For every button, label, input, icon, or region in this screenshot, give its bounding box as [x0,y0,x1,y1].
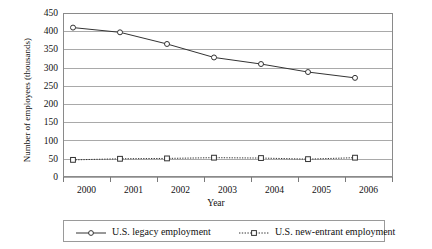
x-axis-tick [345,177,346,182]
chart-figure: Number of employees (thousands) 450 400 … [0,0,432,249]
x-axis-tick [63,177,64,182]
x-axis-tick [251,177,252,182]
x-axis-tick [157,177,158,182]
chart-legend: U.S. legacy employment U.S. new-entrant … [63,220,385,242]
data-point-marker [71,157,76,162]
x-tick-label: 2006 [344,185,394,195]
data-point-marker [118,30,123,35]
data-point-marker [259,156,264,161]
legend-label: U.S. legacy employment [112,226,211,237]
x-tick-label: 2004 [250,185,300,195]
data-point-marker [306,70,311,75]
x-axis-tick [204,177,205,182]
data-point-marker [71,25,76,30]
series-new-entrant-employment [71,155,358,162]
data-point-marker [165,156,170,161]
legend-entry-new-entrant-employment[interactable]: U.S. new-entrant employment [239,225,396,237]
x-axis-tick [392,177,393,182]
data-point-marker [165,41,170,46]
x-tick-label: 2001 [109,185,159,195]
x-axis-title: Year [0,198,432,208]
data-point-marker [212,55,217,60]
x-axis-tick [298,177,299,182]
data-point-marker [212,155,217,160]
series-line [73,28,355,78]
series-legacy-employment [71,25,358,80]
solid-line-circle-marker-icon [76,225,106,237]
data-point-marker [259,62,264,67]
dotted-line-square-marker-icon [239,225,269,237]
data-point-marker [353,75,358,80]
data-point-marker [118,156,123,161]
x-tick-label: 2005 [297,185,347,195]
x-tick-label: 2002 [156,185,206,195]
legend-entry-legacy-employment[interactable]: U.S. legacy employment [76,225,211,237]
data-point-marker [306,157,311,162]
legend-label: U.S. new-entrant employment [275,226,396,237]
x-tick-label: 2003 [203,185,253,195]
data-series-layer [0,0,432,249]
data-point-marker [353,155,358,160]
x-axis-tick [110,177,111,182]
x-tick-label: 2000 [62,185,112,195]
